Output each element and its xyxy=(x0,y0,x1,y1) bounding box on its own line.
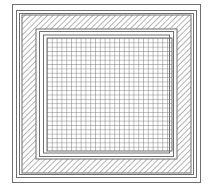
grid-core xyxy=(47,38,172,151)
nested-squares-diagram xyxy=(0,0,212,190)
